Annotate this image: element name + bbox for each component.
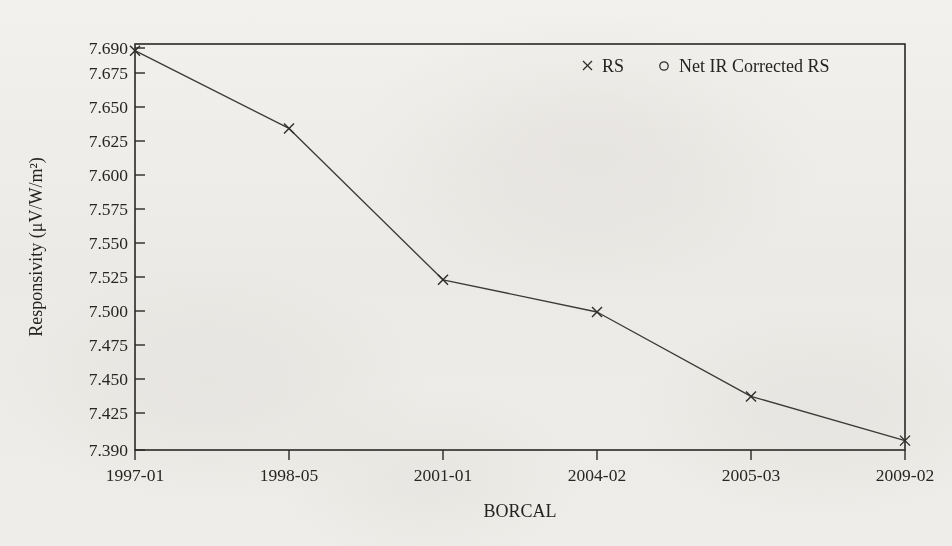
plot-frame (135, 44, 905, 450)
y-tick-label: 7.525 (89, 267, 129, 287)
y-axis-title-group: Responsivity (μV/W/m²) (26, 157, 47, 337)
x-tick-label: 2009-02 (876, 465, 934, 485)
x-tick-label: 2001-01 (414, 465, 472, 485)
legend-label-rs: RS (602, 56, 624, 76)
y-tick-label: 7.500 (89, 301, 129, 321)
y-tick-label: 7.600 (89, 165, 129, 185)
legend-label-net-ir-corrected-rs: Net IR Corrected RS (679, 56, 829, 76)
y-tick-label: 7.450 (89, 369, 129, 389)
data-series-layer (130, 46, 910, 446)
legend-item-rs: RS (583, 56, 624, 76)
x-tick-label: 1998-05 (260, 465, 319, 485)
y-tick-label: 7.625 (89, 131, 129, 151)
y-tick-label: 7.425 (89, 403, 129, 423)
line-chart: 7.690 7.675 7.650 7.625 7.600 7.575 7.55… (0, 0, 952, 546)
y-tick-label: 7.475 (89, 335, 129, 355)
figure-container: 7.690 7.675 7.650 7.625 7.600 7.575 7.55… (0, 0, 952, 546)
x-marker-icon (583, 61, 592, 70)
x-axis-tick-labels: 1997-01 1998-05 2001-01 2004-02 2005-03 … (106, 465, 934, 485)
y-axis-ticks (135, 48, 145, 450)
circle-marker-icon (660, 62, 668, 70)
y-tick-label: 7.390 (89, 440, 129, 460)
y-tick-label: 7.550 (89, 233, 129, 253)
y-tick-label: 7.675 (89, 63, 129, 83)
legend: RS Net IR Corrected RS (583, 56, 829, 76)
x-tick-label: 2004-02 (568, 465, 626, 485)
x-axis-ticks (135, 450, 905, 460)
x-tick-label: 1997-01 (106, 465, 164, 485)
y-axis-title: Responsivity (μV/W/m²) (26, 157, 47, 337)
x-tick-label: 2005-03 (722, 465, 781, 485)
legend-item-net-ir-corrected-rs: Net IR Corrected RS (660, 56, 830, 76)
y-tick-label: 7.575 (89, 199, 129, 219)
y-axis-tick-labels: 7.690 7.675 7.650 7.625 7.600 7.575 7.55… (89, 38, 129, 460)
y-tick-label: 7.690 (89, 38, 129, 58)
x-axis-title: BORCAL (483, 501, 556, 521)
y-tick-label: 7.650 (89, 97, 129, 117)
